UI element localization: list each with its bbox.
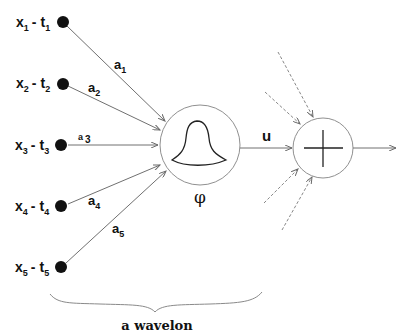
dashed-edge-1 bbox=[278, 52, 313, 117]
input-label-3: x3-t3 bbox=[15, 137, 49, 156]
weight-label-5: a5 bbox=[112, 221, 124, 239]
input-node-2 bbox=[57, 78, 69, 90]
edge-1 bbox=[67, 26, 165, 121]
input-label-2: x2-t2 bbox=[16, 75, 50, 94]
summation-node bbox=[293, 118, 353, 178]
activation-label: φ bbox=[194, 187, 206, 207]
input-label-5: x5-t5 bbox=[15, 259, 49, 278]
weight-label-1: a1 bbox=[114, 57, 126, 75]
edge-5 bbox=[66, 171, 166, 263]
input-node-5 bbox=[55, 261, 67, 273]
weight-label-4: a4 bbox=[88, 193, 100, 211]
input-node-4 bbox=[55, 200, 67, 212]
edge-4 bbox=[68, 165, 160, 204]
weight-labels: a1 a2 a3 a4 a5 bbox=[78, 57, 126, 239]
input-nodes bbox=[55, 16, 69, 273]
weight-label-2: a2 bbox=[88, 80, 100, 98]
input-label-1: x1-t1 bbox=[16, 14, 50, 33]
dashed-edge-3 bbox=[264, 169, 298, 203]
wavelon-circle bbox=[160, 105, 240, 185]
input-label-4: x4-t4 bbox=[15, 198, 49, 217]
output-label-u: u bbox=[262, 127, 271, 144]
dashed-edge-2 bbox=[265, 92, 300, 124]
dashed-edge-4 bbox=[282, 177, 312, 230]
weight-label-3: a3 bbox=[78, 132, 91, 145]
input-labels: x1-t1 x2-t2 x3-t3 x4-t4 x5-t5 bbox=[15, 14, 50, 278]
wavelon-diagram: x1-t1 x2-t2 x3-t3 x4-t4 x5-t5 a1 a2 a3 a… bbox=[0, 0, 404, 336]
caption: a wavelon bbox=[121, 318, 193, 333]
input-node-1 bbox=[57, 16, 69, 28]
input-node-3 bbox=[55, 139, 67, 151]
edge-2 bbox=[68, 86, 160, 130]
wavelon-brace bbox=[50, 292, 262, 312]
wavelon-node: φ bbox=[160, 105, 240, 207]
